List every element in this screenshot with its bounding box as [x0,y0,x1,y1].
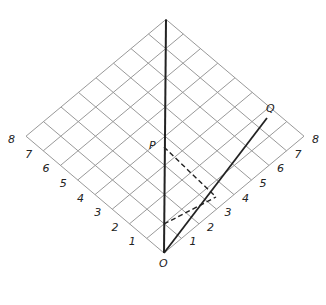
right-axis-tick-label: 3 [225,207,232,218]
left-axis-tick-label: 3 [94,207,101,218]
left-axis-tick-label: 8 [8,134,15,145]
left-axis-tick-label: 5 [60,178,67,189]
right-axis-tick-label: 7 [295,149,302,160]
time-axis [164,19,166,253]
point-q-label: Q [266,103,275,114]
point-p-label: P [149,140,156,151]
right-axis-tick-label: 4 [242,193,249,204]
right-axis-tick-label: 5 [260,178,267,189]
left-axis-tick-label: 2 [112,222,119,233]
spacetime-diagram: 1234567812345678OPQ [0,0,326,305]
origin-label: O [159,258,168,269]
worldline-oq [164,118,267,253]
left-axis-tick-label: 1 [129,236,136,247]
left-axis-tick-label: 6 [43,163,50,174]
right-axis-tick-label: 1 [190,236,197,247]
left-axis-tick-label: 4 [77,193,84,204]
left-axis-tick-label: 7 [25,149,32,160]
right-axis-tick-label: 6 [277,163,284,174]
right-axis-tick-label: 8 [312,134,319,145]
right-axis-tick-label: 2 [207,222,214,233]
